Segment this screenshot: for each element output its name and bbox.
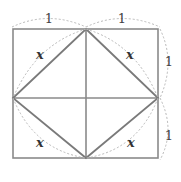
label-top-left: 1 [45, 11, 53, 26]
label-x-top-left: x [35, 47, 44, 62]
label-x-bottom-left: x [35, 135, 44, 150]
square-diagram: 1 1 1 1 x x x x [0, 0, 181, 182]
label-right-upper: 1 [165, 54, 173, 69]
label-right-lower: 1 [165, 128, 173, 143]
label-top-right: 1 [118, 11, 126, 26]
label-x-bottom-right: x [126, 135, 135, 150]
label-x-top-right: x [125, 47, 134, 62]
